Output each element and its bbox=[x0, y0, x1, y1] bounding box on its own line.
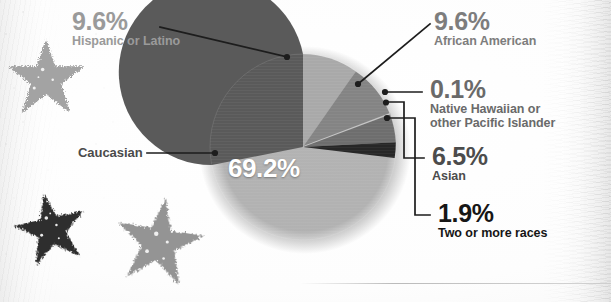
callout-asian-label: Asian bbox=[432, 169, 488, 184]
leader-line-african-american bbox=[358, 24, 430, 84]
pie-inside-value-caucasian: 69.2% bbox=[228, 153, 300, 184]
leader-dot-native-hawaiian bbox=[382, 89, 388, 95]
callout-asian: 6.5% Asian bbox=[432, 143, 488, 184]
callout-african-american-percent: 9.6% bbox=[434, 8, 536, 34]
callout-native-hawaiian-label-line2: other Pacific Islander bbox=[430, 116, 555, 130]
callout-hispanic-percent: 9.6% bbox=[72, 8, 180, 34]
leader-dot-caucasian bbox=[212, 150, 218, 156]
leader-dot-hispanic bbox=[284, 54, 290, 60]
callout-caucasian: Caucasian bbox=[78, 145, 143, 160]
leader-dot-two-or-more-races bbox=[384, 115, 390, 121]
callout-native-hawaiian-percent: 0.1% bbox=[430, 76, 555, 102]
leader-dot-asian bbox=[383, 99, 389, 105]
callout-asian-percent: 6.5% bbox=[432, 143, 488, 169]
callout-two-or-more-races-label: Two or more races bbox=[438, 226, 547, 241]
callout-two-or-more-races: 1.9% Two or more races bbox=[438, 200, 547, 241]
callout-hispanic-label: Hispanic or Latino bbox=[72, 34, 180, 49]
callout-two-or-more-races-percent: 1.9% bbox=[438, 200, 547, 226]
callout-african-american-label: African American bbox=[434, 34, 536, 49]
callout-native-hawaiian-label-line1: Native Hawaiian or bbox=[430, 102, 555, 116]
callout-native-hawaiian: 0.1% Native Hawaiian or other Pacific Is… bbox=[430, 76, 555, 130]
callout-african-american: 9.6% African American bbox=[434, 8, 536, 49]
callout-hispanic-or-latino: 9.6% Hispanic or Latino bbox=[72, 8, 180, 49]
leader-dot-african-american bbox=[355, 81, 361, 87]
infographic-canvas: 69.2% 9.6% Hispanic or Latino 9.6% Afric… bbox=[0, 0, 611, 302]
callout-caucasian-label: Caucasian bbox=[78, 145, 143, 160]
